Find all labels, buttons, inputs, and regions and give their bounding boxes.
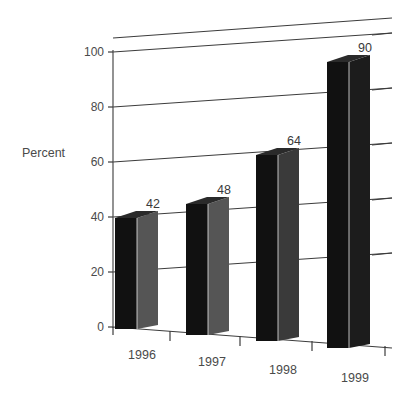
data-label-1996: 42 [146, 197, 160, 211]
bar-1999[interactable] [327, 55, 370, 348]
x-axis-label-1997: 1997 [198, 355, 226, 369]
gridline-top-frame [113, 18, 392, 38]
bar-1997-side-face [208, 197, 229, 335]
y-tick-label-0: 0 [97, 320, 104, 334]
bar-1996-side-face [137, 211, 158, 329]
x-axis-label-1996: 1996 [128, 348, 156, 362]
y-tick-marks [108, 52, 113, 327]
y-tick-label-100: 100 [84, 45, 104, 59]
y-tick-label-20: 20 [91, 265, 105, 279]
x-axis-label-1999: 1999 [341, 371, 369, 385]
data-label-1999: 90 [358, 41, 372, 55]
bar-1997-front-face [186, 204, 208, 335]
bar-1998-front-face [256, 155, 278, 341]
bar-1998-side-face [278, 148, 299, 341]
y-tick-label-40: 40 [91, 210, 105, 224]
bar-1996[interactable] [115, 211, 158, 329]
bar-chart: 100 80 60 40 20 0 Percent 42 48 64 90 19… [0, 0, 410, 402]
bar-1999-side-face [349, 55, 370, 348]
y-tick-label-60: 60 [91, 155, 105, 169]
x-axis-label-1998: 1998 [269, 363, 297, 377]
chart-canvas: 100 80 60 40 20 0 Percent 42 48 64 90 19… [0, 0, 410, 402]
bar-1998[interactable] [256, 148, 299, 341]
data-label-1997: 48 [217, 183, 231, 197]
data-label-1998: 64 [287, 134, 301, 148]
gridline-100 [113, 33, 392, 52]
y-tick-label-80: 80 [91, 100, 105, 114]
bar-1999-front-face [327, 62, 349, 348]
y-axis-title: Percent [22, 146, 66, 160]
bar-1997[interactable] [186, 197, 229, 335]
bar-1996-front-face [115, 218, 137, 329]
